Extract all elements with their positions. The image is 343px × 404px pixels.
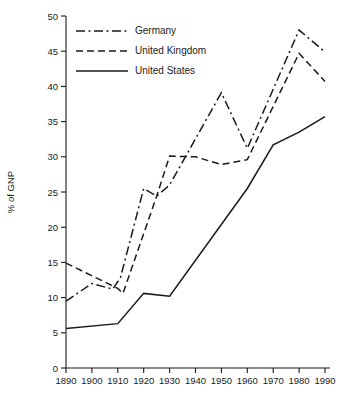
- x-tick-label: 1900: [81, 375, 102, 386]
- chart-container: 05101520253035404550 1890190019101920193…: [0, 0, 343, 404]
- x-tick-label: 1980: [289, 375, 310, 386]
- y-tick-label: 35: [47, 116, 58, 127]
- series-line-united-kingdom: [66, 53, 325, 293]
- y-tick-label: 40: [47, 81, 58, 92]
- data-series: [66, 30, 325, 329]
- legend-label-united-states: United States: [135, 65, 195, 76]
- y-tick-label: 15: [47, 257, 58, 268]
- x-tick-label: 1910: [107, 375, 128, 386]
- y-tick-label: 45: [47, 46, 58, 57]
- y-tick-label: 5: [53, 327, 58, 338]
- x-tick-label: 1920: [133, 375, 154, 386]
- x-tick-label: 1940: [185, 375, 206, 386]
- y-axis-title: % of GNP: [5, 171, 16, 213]
- y-tick-label: 25: [47, 187, 58, 198]
- y-tick-label: 50: [47, 11, 58, 22]
- legend-label-germany: Germany: [135, 25, 176, 36]
- x-tick-label: 1990: [314, 375, 335, 386]
- x-tick-label: 1970: [263, 375, 284, 386]
- legend-label-united-kingdom: United Kingdom: [135, 45, 206, 56]
- x-tick-label: 1950: [211, 375, 232, 386]
- y-tick-label: 10: [47, 292, 58, 303]
- x-tick-label: 1930: [159, 375, 180, 386]
- y-tick-label: 20: [47, 222, 58, 233]
- y-axis-ticks: 05101520253035404550: [47, 11, 66, 374]
- series-line-united-states: [66, 117, 325, 329]
- line-chart: 05101520253035404550 1890190019101920193…: [0, 0, 343, 404]
- axes: [66, 16, 330, 368]
- chart-legend: GermanyUnited KingdomUnited States: [76, 25, 206, 76]
- x-tick-label: 1890: [55, 375, 76, 386]
- y-tick-label: 0: [53, 363, 58, 374]
- x-axis-ticks: 1890190019101920193019401950196019701980…: [55, 368, 335, 386]
- x-tick-label: 1960: [237, 375, 258, 386]
- y-tick-label: 30: [47, 151, 58, 162]
